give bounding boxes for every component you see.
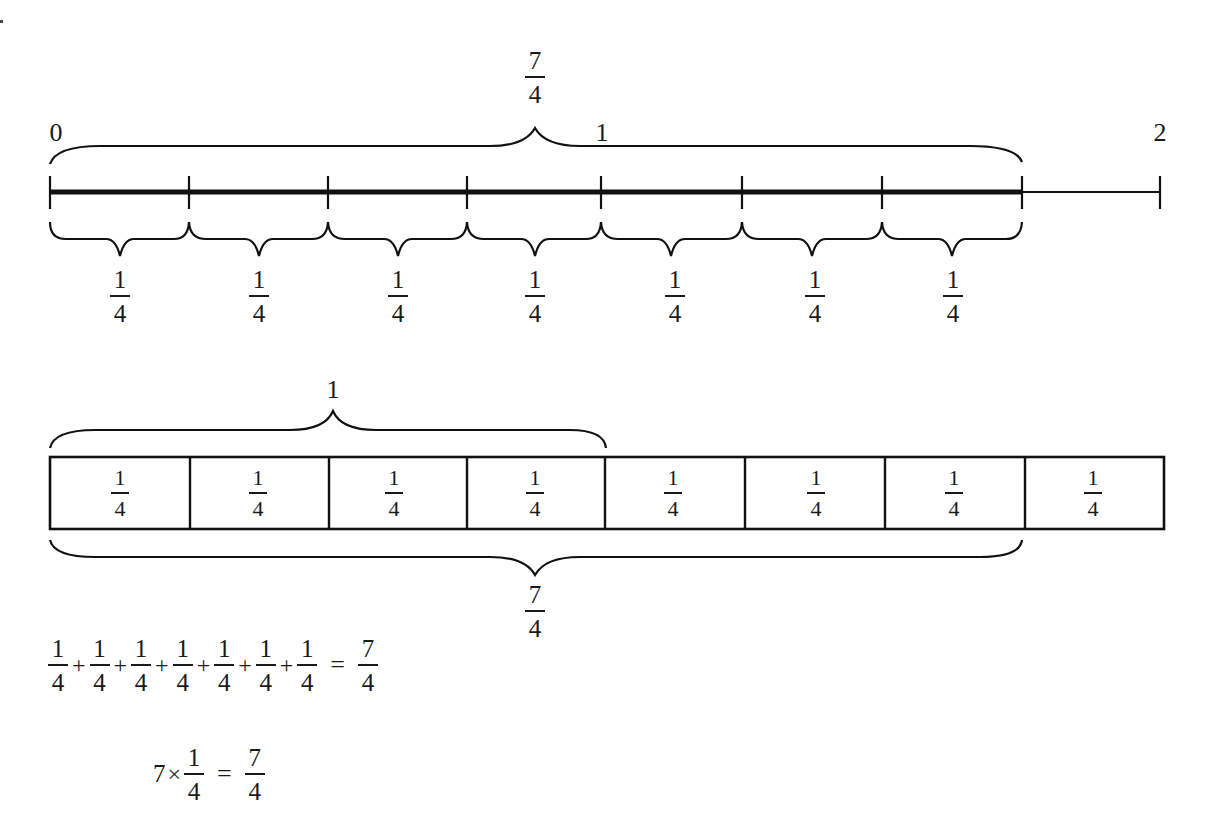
- fraction-denominator: 4: [947, 297, 960, 326]
- addend-fraction: 14: [90, 636, 110, 695]
- fraction-numerator: 1: [251, 467, 266, 492]
- product-result-fraction: 74: [245, 745, 265, 804]
- fraction-numerator: 1: [1086, 467, 1101, 492]
- sum-result-fraction: 74: [358, 636, 378, 695]
- tape-cell-fraction: 14: [249, 467, 267, 520]
- addend-fraction: 14: [297, 636, 317, 695]
- fraction-numerator: 1: [807, 267, 824, 295]
- fraction-denominator: 4: [253, 494, 264, 520]
- fraction-numerator: 1: [387, 467, 402, 492]
- fraction-numerator: 1: [945, 267, 962, 295]
- fraction-denominator: 4: [114, 297, 127, 326]
- fraction-numerator: 1: [947, 467, 962, 492]
- segment-label-fraction: 14: [110, 267, 130, 326]
- fraction-numerator: 1: [112, 267, 129, 295]
- segment-label-fraction: 14: [525, 267, 545, 326]
- fraction-denominator: 4: [529, 612, 542, 641]
- segment-label-fraction: 14: [805, 267, 825, 326]
- fraction-denominator: 4: [529, 297, 542, 326]
- tape-cell-fraction: 14: [1084, 467, 1102, 520]
- plus-sign: +: [197, 652, 211, 679]
- equals-sign: =: [217, 759, 232, 789]
- fraction-numerator: 1: [113, 467, 128, 492]
- plus-sign: +: [155, 652, 169, 679]
- segment-label-fraction: 14: [249, 267, 269, 326]
- fraction-denominator: 4: [529, 78, 542, 107]
- fraction-numerator: 1: [527, 267, 544, 295]
- multiplication-equation: 7 × 14 = 74: [153, 745, 266, 804]
- plus-sign: +: [72, 652, 86, 679]
- plus-sign: +: [114, 652, 128, 679]
- plus-sign: +: [238, 652, 252, 679]
- bottom-brace-seven-fourths: [50, 540, 1022, 575]
- segment-label-fraction: 14: [943, 267, 963, 326]
- tape-cell-fraction: 14: [807, 467, 825, 520]
- top-brace-one: [50, 411, 606, 448]
- fraction-denominator: 4: [392, 297, 405, 326]
- multiplier: 7: [153, 760, 166, 788]
- tape-dividers: [190, 457, 1025, 529]
- tape-cell-fraction: 14: [945, 467, 963, 520]
- addition-equation: 14 + 14 + 14 + 14 + 14 + 14 + 14 = 74: [47, 636, 379, 695]
- times-sign: ×: [168, 761, 182, 788]
- segment-label-fraction: 14: [388, 267, 408, 326]
- top-brace-one-label: 1: [327, 377, 340, 403]
- fraction-denominator: 4: [115, 494, 126, 520]
- fraction-denominator: 4: [668, 494, 679, 520]
- fraction-denominator: 4: [530, 494, 541, 520]
- addend-fraction: 14: [131, 636, 151, 695]
- tape-cell-fraction: 14: [664, 467, 682, 520]
- segment-label-fraction: 14: [665, 267, 685, 326]
- fraction-numerator: 7: [527, 582, 544, 610]
- tape-cell-fraction: 14: [385, 467, 403, 520]
- tape-cell-fraction: 14: [526, 467, 544, 520]
- addend-fraction: 14: [256, 636, 276, 695]
- fraction-denominator: 4: [389, 494, 400, 520]
- number-line-label-zero: 0: [50, 120, 63, 146]
- tape-outline: [50, 457, 1164, 529]
- fraction-numerator: 1: [666, 467, 681, 492]
- fraction-numerator: 1: [528, 467, 543, 492]
- fraction-numerator: 1: [809, 467, 824, 492]
- fraction-denominator: 4: [1088, 494, 1099, 520]
- addend-fraction: 14: [214, 636, 234, 695]
- top-brace-seven-fourths: [50, 128, 1022, 164]
- plus-sign: +: [280, 652, 294, 679]
- addend-fraction: 14: [48, 636, 68, 695]
- fraction-numerator: 7: [527, 48, 544, 76]
- fraction-numerator: 1: [667, 267, 684, 295]
- fraction-denominator: 4: [669, 297, 682, 326]
- top-brace-label-fraction: 7 4: [525, 48, 545, 107]
- diagram-graphics: [0, 0, 1220, 838]
- fraction-denominator: 4: [811, 494, 822, 520]
- addend-fraction: 14: [173, 636, 193, 695]
- fraction-denominator: 4: [949, 494, 960, 520]
- fraction-denominator: 4: [809, 297, 822, 326]
- fraction-numerator: 1: [251, 267, 268, 295]
- number-line-label-two: 2: [1154, 120, 1167, 146]
- equals-sign: =: [330, 650, 345, 680]
- quarter-braces: [50, 222, 1022, 256]
- fraction-numerator: 1: [390, 267, 407, 295]
- tape-cell-fraction: 14: [111, 467, 129, 520]
- number-line-label-one: 1: [596, 120, 609, 146]
- bottom-brace-label-fraction: 74: [525, 582, 545, 641]
- multiplicand-fraction: 14: [184, 745, 204, 804]
- fraction-denominator: 4: [253, 297, 266, 326]
